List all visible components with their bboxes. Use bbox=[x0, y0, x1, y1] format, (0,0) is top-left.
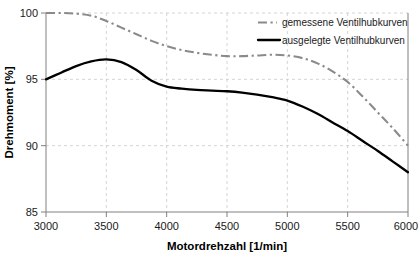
x-tick-labels: 3000 3500 4000 4500 5000 5500 6000 bbox=[34, 220, 418, 232]
y-tick-label: 100 bbox=[20, 7, 38, 19]
y-axis-ticks bbox=[41, 13, 46, 212]
chart-container: 100 95 90 85 3000 3500 4000 4500 5000 55… bbox=[0, 0, 420, 257]
x-tick-label: 5500 bbox=[335, 220, 359, 232]
x-tick-label: 3500 bbox=[94, 220, 118, 232]
y-tick-label: 90 bbox=[26, 140, 38, 152]
x-axis-ticks bbox=[46, 212, 408, 217]
legend: gemessene Ventilhubkurven ausgelegte Ven… bbox=[258, 17, 408, 46]
y-tick-labels: 100 95 90 85 bbox=[20, 7, 38, 218]
legend-label-gemessene: gemessene Ventilhubkurven bbox=[282, 17, 408, 28]
y-axis-title: Drehmoment [%] bbox=[3, 66, 15, 158]
torque-vs-engine-speed-chart: 100 95 90 85 3000 3500 4000 4500 5000 55… bbox=[0, 0, 420, 257]
y-tick-label: 95 bbox=[26, 73, 38, 85]
y-tick-label: 85 bbox=[26, 206, 38, 218]
legend-label-ausgelegte: ausgelegte Ventilhubkurven bbox=[282, 35, 405, 46]
x-tick-label: 3000 bbox=[34, 220, 58, 232]
x-axis-title: Motordrehzahl [1/min] bbox=[167, 240, 287, 252]
x-tick-label: 5000 bbox=[275, 220, 299, 232]
x-tick-label: 4500 bbox=[215, 220, 239, 232]
x-tick-label: 6000 bbox=[394, 220, 418, 232]
x-tick-label: 4000 bbox=[154, 220, 178, 232]
